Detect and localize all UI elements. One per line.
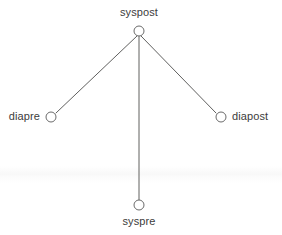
- node-label-diapost: diapost: [232, 110, 268, 123]
- edge-layer: [56, 36, 216, 200]
- node-label-syspre: syspre: [0, 215, 280, 228]
- node-label-syspost: syspost: [0, 6, 280, 19]
- node-diapre[interactable]: [46, 112, 56, 122]
- node-layer: [46, 26, 226, 210]
- node-syspost[interactable]: [134, 26, 144, 36]
- node-label-diapre: diapre: [0, 110, 40, 123]
- node-syspre[interactable]: [134, 200, 144, 210]
- edge-syspost-diapost: [141, 36, 216, 113]
- node-diapost[interactable]: [216, 112, 226, 122]
- edge-syspost-diapre: [56, 36, 137, 113]
- diagram-canvas: syspost diapre diapost syspre: [0, 0, 282, 235]
